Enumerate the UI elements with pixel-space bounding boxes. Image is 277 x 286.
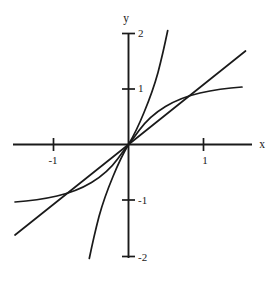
chart-figure: y x 2 1 -1 -2 -1 1 bbox=[0, 0, 277, 286]
x-axis-label: x bbox=[259, 138, 265, 150]
y-tick-label-2: 2 bbox=[138, 27, 144, 39]
y-tick-label-neg1: -1 bbox=[138, 194, 147, 206]
x-tick-label-1: 1 bbox=[202, 154, 208, 166]
y-tick-label-1: 1 bbox=[138, 82, 144, 94]
x-tick-label-neg1: -1 bbox=[48, 154, 57, 166]
y-axis-label: y bbox=[123, 12, 129, 25]
y-tick-label-neg2: -2 bbox=[138, 251, 147, 263]
label-layer: y x 2 1 -1 -2 -1 1 bbox=[0, 0, 277, 286]
